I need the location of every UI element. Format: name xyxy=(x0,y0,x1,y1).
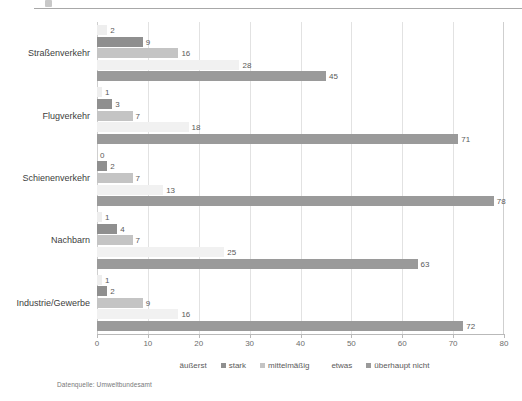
x-tick-20 xyxy=(199,334,200,338)
bar xyxy=(97,99,112,109)
legend-item-1[interactable]: stark xyxy=(221,361,246,370)
bar-value-label: 9 xyxy=(146,37,150,46)
cropped-header-glyph-icon xyxy=(45,0,52,7)
legend-swatch-icon xyxy=(221,363,226,368)
bar xyxy=(97,60,239,70)
x-tick-label: 70 xyxy=(449,339,458,348)
bar-value-label: 25 xyxy=(227,248,236,257)
bar-value-label: 7 xyxy=(136,236,140,245)
bar-value-label: 1 xyxy=(105,88,109,97)
gridline-70 xyxy=(453,22,454,334)
source-note: Datenquelle: Umweltbundesamt xyxy=(57,381,152,388)
x-tick-label: 40 xyxy=(296,339,305,348)
bar xyxy=(97,25,107,35)
bar xyxy=(97,247,224,257)
chart-legend: äußerststarkmittelmäßigetwasüberhaupt ni… xyxy=(97,358,504,372)
bar-value-label: 7 xyxy=(136,111,140,120)
legend-label: stark xyxy=(229,361,246,370)
bar-value-label: 2 xyxy=(110,26,114,35)
x-tick-30 xyxy=(250,334,251,338)
category-label-2: Schienenverkehr xyxy=(22,173,90,183)
x-tick-label: 30 xyxy=(245,339,254,348)
x-tick-label: 50 xyxy=(347,339,356,348)
header-divider xyxy=(34,8,522,9)
bar xyxy=(97,111,133,121)
bar xyxy=(97,134,458,144)
bar xyxy=(97,37,143,47)
bar-value-label: 13 xyxy=(166,185,175,194)
category-label-4: Industrie/Gewerbe xyxy=(16,298,90,308)
bar-value-label: 7 xyxy=(136,174,140,183)
x-tick-40 xyxy=(301,334,302,338)
bar-value-label: 0 xyxy=(100,150,104,159)
plot-right-border xyxy=(503,22,504,334)
x-tick-70 xyxy=(453,334,454,338)
bar-value-label: 16 xyxy=(181,310,190,319)
category-label-0: Straßenverkehr xyxy=(28,48,90,58)
x-tick-label: 0 xyxy=(95,339,99,348)
bar xyxy=(97,196,494,206)
bar xyxy=(97,235,133,245)
bar xyxy=(97,212,102,222)
legend-swatch-icon xyxy=(366,363,371,368)
bar xyxy=(97,298,143,308)
x-tick-label: 20 xyxy=(194,339,203,348)
x-tick-80 xyxy=(504,334,505,338)
gridline-40 xyxy=(301,22,302,334)
legend-swatch-icon xyxy=(323,363,328,368)
bar-value-label: 78 xyxy=(497,197,506,206)
bar xyxy=(97,321,463,331)
legend-item-4[interactable]: überhaupt nicht xyxy=(366,361,429,370)
bar-value-label: 1 xyxy=(105,213,109,222)
bar xyxy=(97,48,178,58)
legend-swatch-icon xyxy=(172,363,177,368)
bar-value-label: 18 xyxy=(192,123,201,132)
x-tick-50 xyxy=(351,334,352,338)
bar-value-label: 2 xyxy=(110,287,114,296)
legend-label: mittelmäßig xyxy=(268,361,309,370)
bar xyxy=(97,122,189,132)
x-tick-label: 10 xyxy=(143,339,152,348)
bar xyxy=(97,286,107,296)
category-label-3: Nachbarn xyxy=(51,235,90,245)
bar xyxy=(97,71,326,81)
bar-value-label: 3 xyxy=(115,100,119,109)
legend-item-0[interactable]: äußerst xyxy=(172,361,207,370)
bar xyxy=(97,275,102,285)
bar xyxy=(97,309,178,319)
bar-value-label: 9 xyxy=(146,298,150,307)
gridline-50 xyxy=(351,22,352,334)
x-tick-label: 80 xyxy=(500,339,509,348)
bar-value-label: 45 xyxy=(329,72,338,81)
gridline-60 xyxy=(402,22,403,334)
bar xyxy=(97,87,102,97)
bar xyxy=(97,259,418,269)
legend-swatch-icon xyxy=(260,363,265,368)
bar-value-label: 4 xyxy=(120,224,124,233)
bar-value-label: 1 xyxy=(105,275,109,284)
bar-value-label: 2 xyxy=(110,162,114,171)
x-tick-0 xyxy=(97,334,98,338)
bar-value-label: 28 xyxy=(242,60,251,69)
bar xyxy=(97,185,163,195)
legend-item-2[interactable]: mittelmäßig xyxy=(260,361,309,370)
bar-value-label: 16 xyxy=(181,49,190,58)
x-tick-label: 60 xyxy=(398,339,407,348)
legend-label: äußerst xyxy=(180,361,207,370)
legend-item-3[interactable]: etwas xyxy=(323,361,352,370)
bar-value-label: 72 xyxy=(466,322,475,331)
bar xyxy=(97,173,133,183)
bar xyxy=(97,224,117,234)
legend-label: etwas xyxy=(331,361,352,370)
chart-page: StraßenverkehrFlugverkehrSchienenverkehr… xyxy=(0,0,522,401)
legend-label: überhaupt nicht xyxy=(374,361,429,370)
bar xyxy=(97,161,107,171)
bar-value-label: 63 xyxy=(421,259,430,268)
x-tick-10 xyxy=(148,334,149,338)
bar-value-label: 71 xyxy=(461,134,470,143)
x-tick-60 xyxy=(402,334,403,338)
category-label-1: Flugverkehr xyxy=(42,111,90,121)
